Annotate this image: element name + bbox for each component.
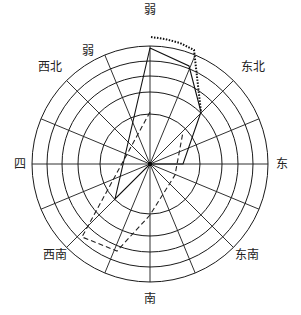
direction-label-upper-left-inner: 弱 xyxy=(82,44,94,58)
direction-label-top: 弱 xyxy=(144,3,156,17)
direction-label-northeast: 东北 xyxy=(241,60,265,74)
direction-label-bottom: 南 xyxy=(144,291,156,306)
wind-rose-chart: 弱弱西北东北四东西南东南南 xyxy=(0,0,301,315)
series-solid-line xyxy=(115,48,201,199)
direction-label-southeast: 东南 xyxy=(235,247,259,262)
direction-label-southwest: 西南 xyxy=(43,247,67,262)
direction-label-west: 四 xyxy=(14,157,26,171)
direction-label-east: 东 xyxy=(276,157,288,171)
direction-label-northwest: 西北 xyxy=(38,60,62,74)
